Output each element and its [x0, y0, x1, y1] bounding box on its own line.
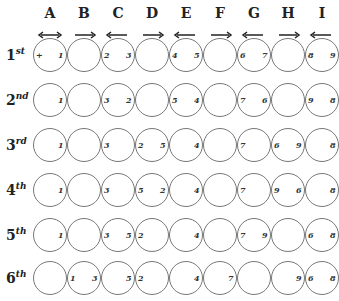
row-ordinal: 3 [6, 137, 16, 153]
ring-circle [67, 128, 101, 162]
position-number: 1 [58, 230, 64, 240]
ring-circle [271, 218, 305, 252]
row-suffix: th [16, 269, 27, 279]
position-number: + [36, 50, 43, 60]
position-number: 6 [308, 273, 314, 283]
position-number: 1 [58, 185, 64, 195]
column-letter-h: H [271, 5, 305, 21]
position-number: 2 [160, 185, 166, 195]
position-number: 6 [262, 95, 268, 105]
row-suffix: nd [16, 91, 29, 101]
position-number: 3 [104, 185, 110, 195]
row-ordinal: 4 [6, 182, 16, 198]
position-number: 2 [138, 273, 144, 283]
column-letter-f: F [203, 5, 237, 21]
ring-circle [135, 38, 169, 72]
position-number: 6 [308, 230, 314, 240]
position-number: 1 [58, 95, 64, 105]
column-letter-g: G [237, 5, 271, 21]
position-number: 2 [138, 230, 144, 240]
position-number: 2 [126, 95, 132, 105]
ring-circle [203, 38, 237, 72]
position-number: 5 [138, 185, 144, 195]
position-number: 7 [228, 273, 234, 283]
ring-circle [237, 261, 271, 295]
position-number: 4 [194, 230, 200, 240]
position-number: 1 [70, 273, 76, 283]
position-number: 3 [92, 273, 98, 283]
position-number: 5 [126, 230, 132, 240]
arrow-right-icon [271, 26, 305, 38]
row-ordinal: 6 [6, 270, 16, 286]
position-number: 8 [330, 140, 336, 150]
position-number: 7 [240, 230, 246, 240]
ring-circle [203, 173, 237, 207]
row-ordinal: 1 [6, 47, 16, 63]
position-number: 1 [58, 50, 64, 60]
position-number: 5 [194, 50, 200, 60]
position-number: 7 [240, 185, 246, 195]
ring-circle [203, 218, 237, 252]
position-number: 8 [330, 95, 336, 105]
column-letter-e: E [169, 5, 203, 21]
ring-circle [271, 38, 305, 72]
ring-circle [67, 38, 101, 72]
row-suffix: th [16, 181, 27, 191]
position-number: 8 [308, 50, 314, 60]
arrow-left-icon [305, 26, 339, 38]
row-suffix: st [16, 46, 25, 56]
row-suffix: th [16, 226, 27, 236]
position-number: 3 [104, 95, 110, 105]
position-number: 9 [308, 95, 314, 105]
arrow-left-icon [237, 26, 271, 38]
position-number: 9 [274, 185, 280, 195]
position-number: 8 [330, 230, 336, 240]
row-label-6: 6th [6, 269, 26, 286]
ring-circle [135, 83, 169, 117]
row-ordinal: 2 [6, 92, 16, 108]
arrow-right-icon [135, 26, 169, 38]
position-number: 5 [172, 95, 178, 105]
position-number: 6 [296, 185, 302, 195]
position-number: 3 [104, 230, 110, 240]
position-number: 5 [160, 140, 166, 150]
row-label-5: 5th [6, 226, 26, 243]
position-number: 4 [194, 95, 200, 105]
position-number: 2 [104, 50, 110, 60]
row-label-4: 4th [6, 181, 26, 198]
row-label-2: 2nd [6, 91, 29, 108]
position-number: 9 [296, 273, 302, 283]
position-number: 5 [126, 273, 132, 283]
arrow-left-icon [169, 26, 203, 38]
position-number: 4 [194, 140, 200, 150]
position-number: 7 [240, 95, 246, 105]
ring-circle [67, 173, 101, 207]
position-number: 9 [330, 50, 336, 60]
ring-circle [271, 83, 305, 117]
position-number: 1 [58, 140, 64, 150]
position-number: 9 [296, 140, 302, 150]
ring-circle [33, 261, 67, 295]
row-suffix: rd [16, 136, 27, 146]
ring-circle [203, 83, 237, 117]
position-number: 3 [104, 140, 110, 150]
row-ordinal: 5 [6, 227, 16, 243]
position-number: 4 [194, 273, 200, 283]
position-number: 7 [262, 50, 268, 60]
position-number: 4 [194, 185, 200, 195]
ring-circle [203, 128, 237, 162]
row-label-3: 3rd [6, 136, 27, 153]
arrow-left-icon [101, 26, 135, 38]
arrow-right-icon [203, 26, 237, 38]
position-number: 7 [240, 140, 246, 150]
arrow-right-icon [67, 26, 101, 38]
position-number: 9 [262, 230, 268, 240]
position-number: 2 [138, 140, 144, 150]
column-letter-d: D [135, 5, 169, 21]
ring-circle [67, 218, 101, 252]
position-number: 4 [172, 50, 178, 60]
column-letter-a: A [33, 5, 67, 21]
position-number: 6 [274, 140, 280, 150]
arrow-both-icon [33, 26, 67, 38]
position-number: 8 [330, 185, 336, 195]
